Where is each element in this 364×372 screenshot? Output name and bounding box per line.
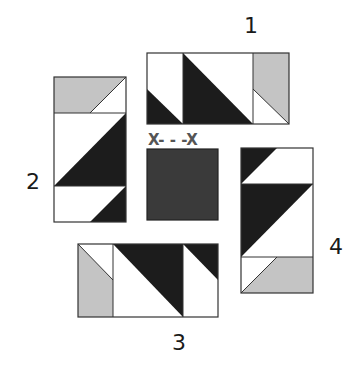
unit-4 xyxy=(241,148,313,293)
unit-3-label: 3 xyxy=(172,332,186,354)
quilt-diagram: 1 2 3 4 X- - -X xyxy=(0,0,364,372)
unit-2 xyxy=(54,77,126,222)
quilt-diagram-canvas xyxy=(0,0,364,372)
unit-1 xyxy=(147,53,289,124)
center-square xyxy=(147,149,218,220)
unit-1-label: 1 xyxy=(244,15,258,37)
unit-4-label: 4 xyxy=(329,236,343,258)
center-marker-label: X- - -X xyxy=(148,133,198,148)
unit-3 xyxy=(78,244,218,317)
unit-2-label: 2 xyxy=(26,171,40,193)
